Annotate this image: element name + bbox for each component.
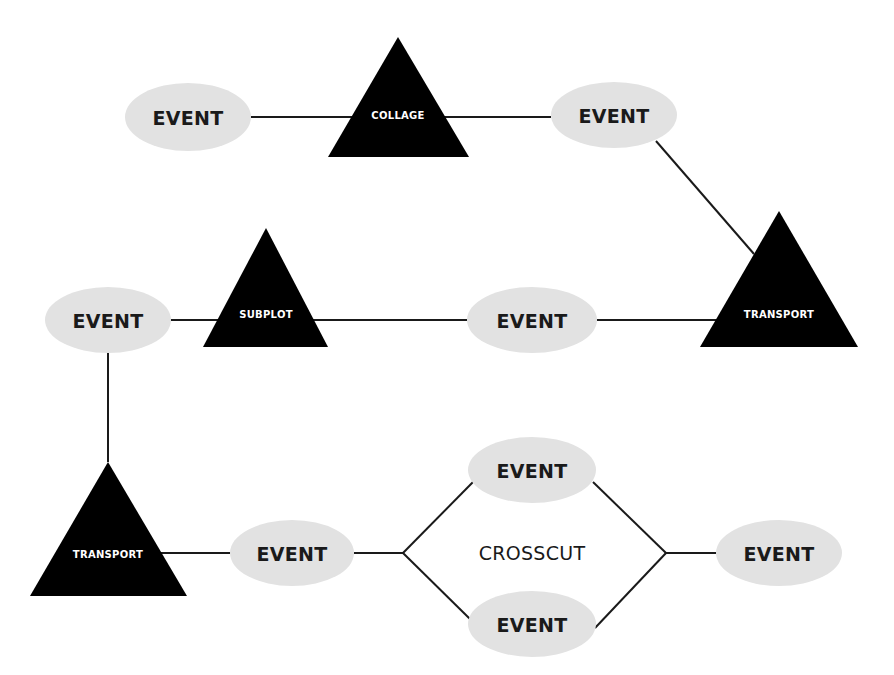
crosscut-label: CROSSCUT bbox=[479, 542, 586, 564]
event-node: EVENT bbox=[468, 437, 596, 503]
connector-lines bbox=[108, 117, 754, 628]
triangle-node-transport: TRANSPORT bbox=[30, 462, 187, 596]
event-label: EVENT bbox=[496, 310, 567, 332]
event-node: EVENT bbox=[551, 82, 677, 148]
triangle-label: SUBPLOT bbox=[239, 309, 293, 320]
triangle-label: TRANSPORT bbox=[73, 549, 143, 560]
triangle-shape bbox=[203, 228, 328, 347]
event-label: EVENT bbox=[72, 310, 143, 332]
triangle-node-collage: COLLAGE bbox=[328, 37, 469, 157]
connector-line bbox=[656, 141, 754, 254]
event-label: EVENT bbox=[152, 107, 223, 129]
triangle-node-transport: TRANSPORT bbox=[700, 211, 858, 347]
triangle-shape bbox=[700, 211, 858, 347]
event-node: EVENT bbox=[467, 287, 597, 353]
connector-line bbox=[595, 553, 666, 628]
triangle-label: TRANSPORT bbox=[744, 309, 814, 320]
triangle-shape bbox=[328, 37, 469, 157]
connector-line bbox=[593, 482, 666, 553]
triangle-label: COLLAGE bbox=[371, 110, 424, 121]
triangle-node-subplot: SUBPLOT bbox=[203, 228, 328, 347]
event-label: EVENT bbox=[496, 614, 567, 636]
event-node: EVENT bbox=[45, 287, 171, 353]
event-label: EVENT bbox=[578, 105, 649, 127]
event-label: EVENT bbox=[743, 543, 814, 565]
connector-line bbox=[403, 553, 470, 619]
event-node: EVENT bbox=[716, 520, 842, 586]
connector-line bbox=[403, 482, 473, 553]
triangle-shape bbox=[30, 462, 187, 596]
event-label: EVENT bbox=[256, 543, 327, 565]
event-node: EVENT bbox=[468, 591, 596, 657]
story-structure-diagram: COLLAGETRANSPORTSUBPLOTTRANSPORT EVENTEV… bbox=[0, 0, 894, 675]
event-node: EVENT bbox=[125, 83, 251, 151]
event-node: EVENT bbox=[230, 520, 354, 586]
event-label: EVENT bbox=[496, 460, 567, 482]
